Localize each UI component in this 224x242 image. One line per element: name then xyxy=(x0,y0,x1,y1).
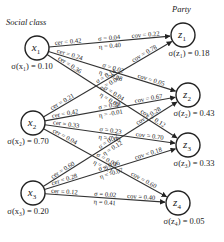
sigma-label-z2: σ(z₂) = 0.43 xyxy=(174,108,215,118)
node-x3: x3σ(x₃) = 0.20 xyxy=(7,181,48,216)
edge-cer-label: cer = 0.04 xyxy=(52,127,79,146)
edge-cov-label: cov = 0.78 xyxy=(130,43,158,64)
node-z4: z4σ(z₄) = 0.05 xyxy=(164,191,205,226)
edge-labels-layer: cer = 0.42σ = 0.04η = 0.40cov = 0.22cer … xyxy=(49,30,167,207)
sigma-label-z4: σ(z₄) = 0.05 xyxy=(164,216,205,226)
sigma-label-x1: σ(x₁) = 0.10 xyxy=(11,61,52,71)
edge-cov-label: cov = 0.60 xyxy=(130,170,159,190)
causal-diagram: Social class Party cer = 0.42σ = 0.04η =… xyxy=(0,0,224,242)
edge-eta-label: η = 0.41 xyxy=(94,198,116,206)
node-z3: z3σ(z₃) = 0.33 xyxy=(174,133,215,168)
node-x2: x2σ(x₂) = 0.70 xyxy=(7,111,48,146)
node-x1: x1σ(x₁) = 0.10 xyxy=(11,36,52,71)
node-z2: z2σ(z₂) = 0.43 xyxy=(174,83,215,118)
edge-cov-label: cov = 0.05 xyxy=(137,72,167,87)
party-title: Party xyxy=(171,4,191,14)
edge-cov-label: cov = 0.18 xyxy=(134,145,164,160)
sigma-label-z1: σ(z₁) = 0.18 xyxy=(169,48,210,58)
sigma-label-x3: σ(x₃) = 0.20 xyxy=(7,206,48,216)
sigma-label-x2: σ(x₂) = 0.70 xyxy=(7,136,48,146)
sigma-label-z3: σ(z₃) = 0.33 xyxy=(174,158,215,168)
node-z1: z1σ(z₁) = 0.18 xyxy=(169,23,210,58)
edge-eta-label: η = 0.40 xyxy=(99,41,122,50)
social-class-title: Social class xyxy=(6,17,47,27)
